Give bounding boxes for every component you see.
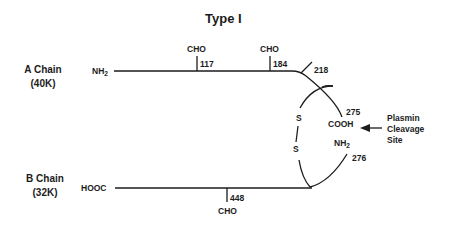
annotation-site: Site — [387, 136, 403, 145]
cho-label-448: CHO — [218, 207, 237, 216]
disulfide-loop-lower — [299, 160, 310, 187]
cho-label-117: CHO — [187, 45, 206, 54]
residue-218: 218 — [314, 66, 328, 75]
disulfide-bond — [296, 126, 298, 142]
residue-184: 184 — [273, 60, 287, 69]
a-chain-mass: (40K) — [8, 79, 78, 89]
a-chain-label: A Chain — [8, 65, 78, 75]
diagram-title: Type I — [205, 12, 242, 25]
residue-275: 275 — [346, 108, 360, 117]
b-chain-label: B Chain — [10, 174, 80, 184]
cleavage-arrow-head — [360, 124, 370, 132]
annotation-cleavage: Cleavage — [387, 125, 424, 134]
nh2-terminus: NH2 — [334, 139, 350, 150]
residue-117: 117 — [200, 60, 214, 69]
protein-structure-diagram: Type I A Chain (40K) NH2 CHO 117 CHO 184… — [0, 0, 449, 227]
annotation-plasmin: Plasmin — [387, 114, 420, 123]
a-chain-n-terminus: NH2 — [92, 67, 108, 78]
residue-448: 448 — [230, 194, 244, 203]
disulfide-s-top: S — [296, 114, 302, 123]
a-chain-line — [114, 71, 306, 76]
b-chain-arc — [310, 154, 347, 187]
b-chain-c-terminus: HOOC — [81, 184, 107, 193]
b-chain-mass: (32K) — [10, 188, 80, 198]
residue-276: 276 — [352, 154, 366, 163]
tick-218 — [301, 62, 312, 73]
disulfide-s-bottom: S — [293, 145, 299, 154]
a-chain-arc — [306, 76, 342, 117]
cooh-terminus: COOH — [328, 120, 354, 129]
cho-label-184: CHO — [260, 45, 279, 54]
